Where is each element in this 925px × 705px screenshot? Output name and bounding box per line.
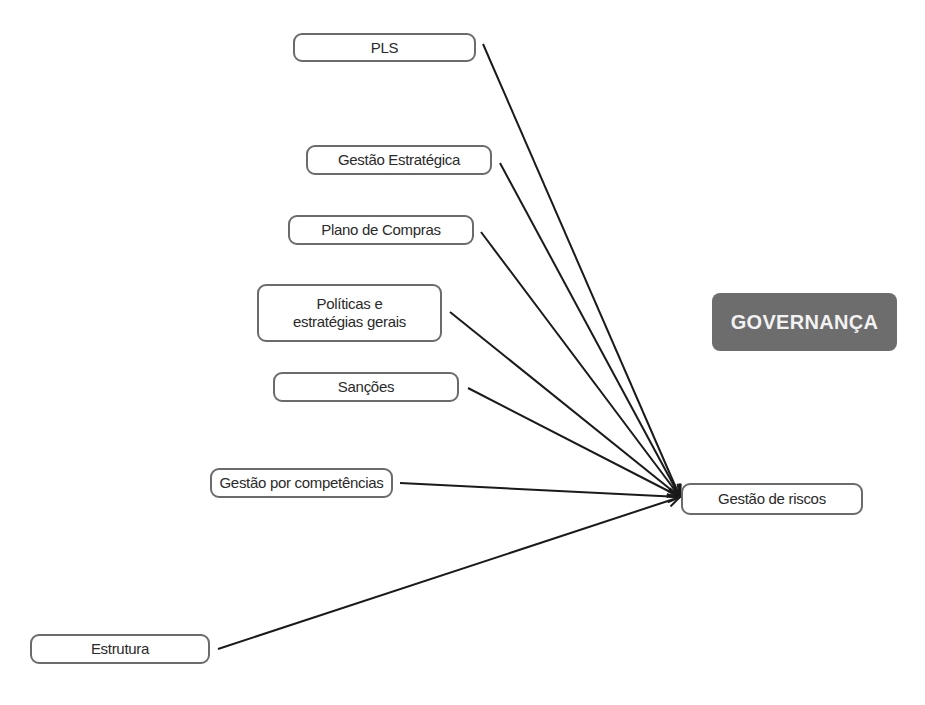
- node-label: Estrutura: [91, 640, 149, 658]
- node-gestao-por-competencias: Gestão por competências: [210, 468, 393, 498]
- node-label: Sanções: [338, 378, 394, 396]
- arrow-to-sancoes: [468, 388, 680, 497]
- node-estrutura: Estrutura: [30, 634, 210, 664]
- arrow-to-pls: [483, 44, 680, 497]
- arrow-connectors: [0, 0, 925, 705]
- node-label: Gestão de riscos: [718, 490, 826, 508]
- node-pls: PLS: [293, 33, 476, 62]
- arrow-to-gestao-estrategica: [500, 163, 680, 497]
- arrow-to-plano-de-compras: [481, 232, 680, 497]
- node-label: PLS: [371, 39, 398, 57]
- arrow-to-gestao-por-competencias: [400, 483, 680, 497]
- node-label: Plano de Compras: [321, 221, 440, 239]
- node-label: Políticas e estratégias gerais: [287, 295, 412, 331]
- governanca-badge: GOVERNANÇA: [712, 293, 897, 351]
- node-label: Gestão por competências: [219, 474, 383, 492]
- node-gestao-estrategica: Gestão Estratégica: [306, 145, 492, 175]
- node-gestao-de-riscos: Gestão de riscos: [681, 483, 863, 515]
- node-politicas-estrategias: Políticas e estratégias gerais: [257, 284, 442, 342]
- arrow-to-estrutura: [218, 497, 680, 649]
- node-plano-de-compras: Plano de Compras: [288, 215, 474, 245]
- arrow-to-politicas: [450, 312, 680, 497]
- badge-label: GOVERNANÇA: [731, 311, 878, 334]
- node-label: Gestão Estratégica: [338, 151, 460, 169]
- node-sancoes: Sanções: [273, 372, 459, 402]
